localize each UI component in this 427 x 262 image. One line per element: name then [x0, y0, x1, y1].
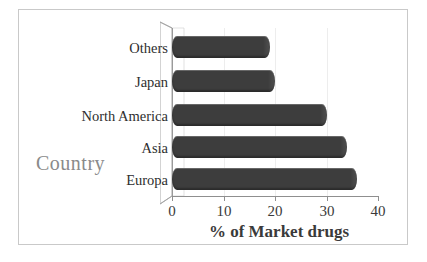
x-tick — [275, 196, 276, 201]
category-label-group: Others Japan North America Asia Europa — [5, 0, 168, 262]
x-tick — [172, 196, 173, 201]
bar-north-america[interactable] — [172, 104, 327, 126]
chart-figure: Others Japan North America Asia Europa C… — [0, 0, 427, 262]
y-axis-title: Country — [36, 152, 105, 175]
x-tick-label-40: 40 — [358, 203, 398, 220]
bar-japan[interactable] — [172, 70, 275, 92]
x-tick-label-10: 10 — [204, 203, 244, 220]
category-label-north-america: North America — [8, 108, 168, 125]
x-tick-label-30: 30 — [307, 203, 347, 220]
x-tick — [378, 196, 379, 201]
x-tick — [327, 196, 328, 201]
x-tick-label-20: 20 — [255, 203, 295, 220]
bar-europa[interactable] — [172, 168, 357, 190]
x-tick — [224, 196, 225, 201]
bar-asia[interactable] — [172, 136, 347, 158]
x-axis-title: % of Market drugs — [172, 222, 386, 242]
x-tick-label-0: 0 — [152, 203, 192, 220]
bar-others[interactable] — [172, 36, 270, 58]
category-label-others: Others — [8, 40, 168, 57]
category-label-japan: Japan — [8, 74, 168, 91]
